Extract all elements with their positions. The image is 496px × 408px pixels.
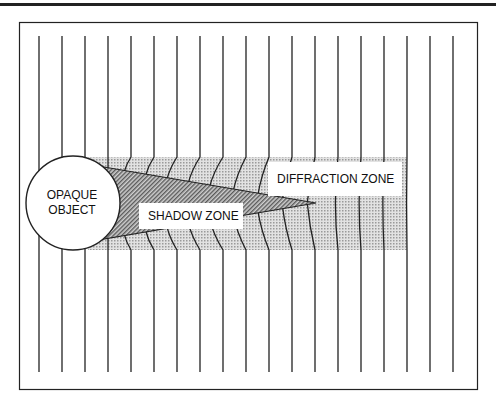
opaque-object-label: OPAQUE OBJECT (30, 188, 114, 218)
diffraction-zone-label: DIFFRACTION ZONE (277, 172, 394, 186)
opaque-object-label-line1: OPAQUE (30, 188, 114, 203)
shadow-zone-label: SHADOW ZONE (148, 209, 239, 223)
opaque-object-label-line2: OBJECT (30, 203, 114, 218)
